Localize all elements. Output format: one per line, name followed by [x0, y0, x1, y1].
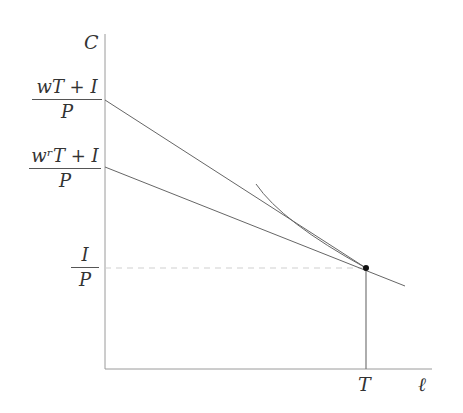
budget-line-wage — [105, 100, 366, 268]
reservation-wage-intercept-label: wʳT + I P — [29, 147, 101, 190]
reservation-wage-denominator: P — [29, 169, 101, 190]
high-wage-intercept-label: wT + I P — [32, 78, 102, 121]
reservation-wage-numerator: wʳT + I — [29, 147, 101, 168]
diagram-canvas — [0, 0, 463, 413]
indifference-curve — [256, 184, 366, 268]
high-wage-denominator: P — [32, 100, 102, 121]
y-axis-label: C — [84, 33, 99, 52]
nonlabor-income-denominator: P — [71, 268, 99, 289]
high-wage-numerator: wT + I — [32, 78, 102, 99]
endowment-point — [363, 265, 369, 271]
x-axis-label: ℓ — [418, 375, 426, 394]
x-tick-label-T: T — [358, 375, 371, 394]
nonlabor-income-intercept-label: I P — [71, 246, 99, 289]
nonlabor-income-numerator: I — [71, 246, 99, 267]
